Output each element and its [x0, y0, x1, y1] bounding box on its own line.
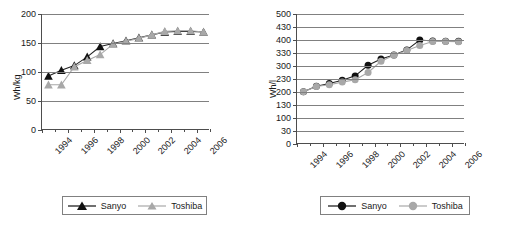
data-point-toshiba	[416, 42, 423, 49]
x-axis-tick	[171, 129, 172, 133]
x-axis-tick-minor	[132, 129, 133, 132]
legend-entry-toshiba[interactable]: Toshiba	[398, 200, 463, 212]
y-axis-tick-label: 200	[21, 9, 36, 19]
y-axis-tick-label: 150	[21, 38, 36, 48]
x-axis-tick-label: 2006	[463, 149, 484, 170]
y-axis-tick-label: 0	[31, 125, 36, 135]
y-axis-tick	[293, 105, 297, 106]
gridline	[297, 40, 464, 41]
y-axis-tick	[293, 40, 297, 41]
x-axis-tick-minor	[184, 129, 185, 132]
data-point-toshiba	[378, 58, 385, 65]
y-axis-tick	[293, 92, 297, 93]
x-axis-tick	[42, 129, 43, 133]
x-axis-tick	[426, 143, 427, 147]
x-axis-tick	[297, 143, 298, 147]
y-axis-tick-label: 230	[276, 74, 291, 84]
y-axis-tick	[293, 66, 297, 67]
x-axis-tick-minor	[55, 129, 56, 132]
gridline	[297, 79, 464, 80]
y-axis-tick-label: 50	[26, 96, 36, 106]
y-axis-tick	[293, 131, 297, 132]
x-axis-tick-label: 1996	[79, 135, 100, 156]
x-axis-tick	[400, 143, 401, 147]
gridline	[297, 66, 464, 67]
x-axis-tick-label: 2000	[130, 135, 151, 156]
legend-right: Sanyo Toshiba	[320, 196, 470, 215]
triangle-marker-icon	[67, 200, 97, 212]
x-axis-tick-label: 1994	[53, 135, 74, 156]
x-axis-tick	[94, 129, 95, 133]
gridline	[42, 43, 209, 44]
x-axis-tick-label: 1998	[105, 135, 126, 156]
gridline	[297, 14, 464, 15]
x-axis-tick-minor	[336, 143, 337, 146]
legend-entry-sanyo[interactable]: Sanyo	[67, 200, 127, 212]
gridline	[42, 72, 209, 73]
x-axis-tick-label: 1994	[308, 149, 329, 170]
x-axis-tick-label: 2004	[182, 135, 203, 156]
y-axis-tick-label: 330	[276, 48, 291, 58]
x-axis-tick	[452, 143, 453, 147]
x-axis-tick-label: 1996	[334, 149, 355, 170]
x-axis-tick-minor	[387, 143, 388, 146]
x-axis-tick-label: 2004	[437, 149, 458, 170]
x-axis-tick-minor	[81, 129, 82, 132]
y-axis-title-left: Wh/kg	[12, 74, 22, 100]
chart-panel-volumetric: Wh/l 50043040033030023020013010030019941…	[255, 0, 509, 226]
y-axis-tick	[38, 14, 42, 15]
plot-area-left: 2001501005001994199619982000200220042006	[41, 14, 209, 130]
circle-marker-icon	[398, 200, 428, 212]
x-axis-tick-minor	[158, 129, 159, 132]
y-axis-tick	[38, 72, 42, 73]
x-axis-tick-label: 1998	[360, 149, 381, 170]
y-axis-tick	[293, 53, 297, 54]
x-axis-tick-label: 2006	[208, 135, 229, 156]
x-axis-tick-minor	[107, 129, 108, 132]
chart-panel-gravimetric: Wh/kg 2001501005001994199619982000200220…	[0, 0, 254, 226]
x-axis-tick	[145, 129, 146, 133]
y-axis-tick	[293, 79, 297, 80]
x-axis-tick-label: 2002	[411, 149, 432, 170]
x-axis-tick	[120, 129, 121, 133]
x-axis-tick-minor	[210, 129, 211, 132]
legend-entry-toshiba[interactable]: Toshiba	[137, 200, 202, 212]
gridline	[297, 105, 464, 106]
x-axis-tick-minor	[439, 143, 440, 146]
figure-two-panel-chart: Wh/kg 2001501005001994199619982000200220…	[0, 0, 509, 226]
legend-label: Toshiba	[171, 201, 202, 211]
y-axis-tick-label: 130	[276, 100, 291, 110]
y-axis-tick-label: 100	[21, 67, 36, 77]
legend-entry-sanyo[interactable]: Sanyo	[327, 200, 387, 212]
y-axis-tick-label: 0	[286, 139, 291, 149]
x-axis-tick	[349, 143, 350, 147]
legend-label: Sanyo	[101, 201, 127, 211]
gridline	[297, 92, 464, 93]
x-axis-tick	[375, 143, 376, 147]
legend-label: Sanyo	[361, 201, 387, 211]
gridline	[42, 101, 209, 102]
y-axis-tick-label: 30	[281, 126, 291, 136]
y-axis-tick-label: 200	[276, 87, 291, 97]
plot-area-right: 5004304003303002302001301003001994199619…	[296, 14, 464, 144]
x-axis-tick	[197, 129, 198, 133]
gridline	[297, 118, 464, 119]
y-axis-tick	[293, 27, 297, 28]
x-axis-tick-minor	[362, 143, 363, 146]
gridline	[42, 14, 209, 15]
x-axis-tick-minor	[310, 143, 311, 146]
x-axis-tick-minor	[413, 143, 414, 146]
y-axis-tick-label: 300	[276, 61, 291, 71]
x-axis-tick-label: 2002	[156, 135, 177, 156]
y-axis-tick	[293, 14, 297, 15]
legend-left: Sanyo Toshiba	[62, 196, 207, 215]
y-axis-tick-label: 430	[276, 22, 291, 32]
y-axis-tick-label: 400	[276, 35, 291, 45]
y-axis-tick-label: 100	[276, 113, 291, 123]
y-axis-tick	[293, 118, 297, 119]
x-axis-tick-minor	[465, 143, 466, 146]
gridline	[297, 131, 464, 132]
y-axis-tick-label: 500	[276, 9, 291, 19]
data-point-toshiba	[313, 83, 320, 90]
x-axis-tick	[323, 143, 324, 147]
